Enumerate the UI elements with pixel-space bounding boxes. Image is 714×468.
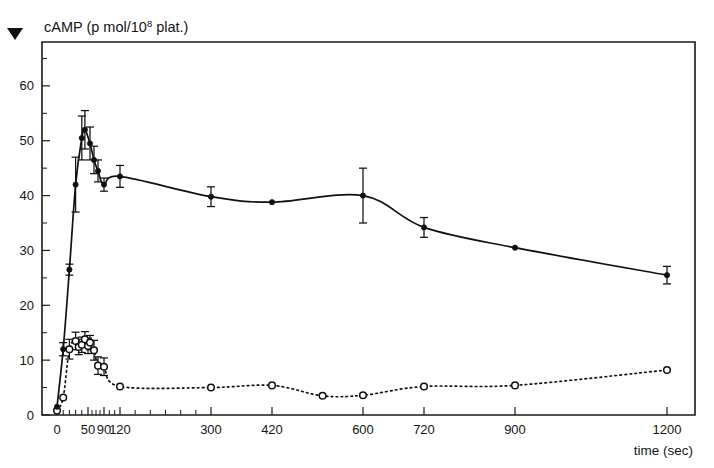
data-point-open [664,367,671,374]
data-point-filled [82,127,87,132]
stimulated-curve [57,129,667,406]
data-point-filled [61,347,66,352]
data-point-open [66,346,73,353]
x-tick-label: 900 [504,422,526,437]
chart-canvas: cAMP (p mol/108 plat.) 0102030405060 050… [0,0,714,468]
data-point-open [91,347,98,354]
chart-title: cAMP (p mol/108 plat.) [44,18,188,35]
data-point-filled [664,273,669,278]
data-point-open [319,393,326,400]
data-point-filled [67,267,72,272]
x-tick-label: 300 [200,422,222,437]
x-tick-label: 0 [53,422,60,437]
data-point-open [117,383,124,390]
series-stimulated [54,111,671,410]
data-point-filled [73,182,78,187]
y-tick-label: 10 [20,353,34,368]
data-point-filled [208,194,213,199]
series-basal [54,332,671,414]
data-point-open [87,339,94,346]
data-point-filled [360,193,365,198]
data-point-filled [421,225,426,230]
down-triangle-bullet-icon [7,28,23,40]
data-point-filled [87,141,92,146]
basal-curve [57,339,667,410]
x-tick-label: 1200 [653,422,682,437]
y-tick-label: 20 [20,298,34,313]
data-point-filled [101,182,106,187]
data-point-filled [91,157,96,162]
data-point-filled [79,135,84,140]
data-point-open [101,363,108,370]
chart-figure: cAMP (p mol/108 plat.) 0102030405060 050… [0,0,714,468]
y-tick-label: 50 [20,133,34,148]
x-axis-ticks: 050901203004206007209001200 [53,407,681,437]
plot-frame [42,42,695,415]
data-point-filled [512,245,517,250]
data-point-open [60,394,67,401]
data-point-filled [54,404,59,409]
data-point-filled [269,200,274,205]
data-point-open [208,384,215,391]
y-tick-label: 30 [20,243,34,258]
data-point-open [269,382,276,389]
y-axis-ticks: 0102030405060 [20,58,50,422]
x-tick-label: 600 [352,422,374,437]
data-point-open [360,392,367,399]
y-tick-label: 0 [27,408,34,423]
data-point-filled [95,168,100,173]
y-tick-label: 40 [20,188,34,203]
x-tick-label: 50 [81,422,95,437]
data-point-filled [117,174,122,179]
chart-title-tail: plat.) [152,19,188,35]
x-tick-label: 720 [413,422,435,437]
data-point-open [512,382,519,389]
x-axis-label: time (sec) [634,443,693,458]
x-tick-label: 420 [261,422,283,437]
data-point-open [421,383,428,390]
y-tick-label: 60 [20,78,34,93]
x-tick-label: 120 [109,422,131,437]
chart-title-main: cAMP (p mol/10 [44,19,147,35]
